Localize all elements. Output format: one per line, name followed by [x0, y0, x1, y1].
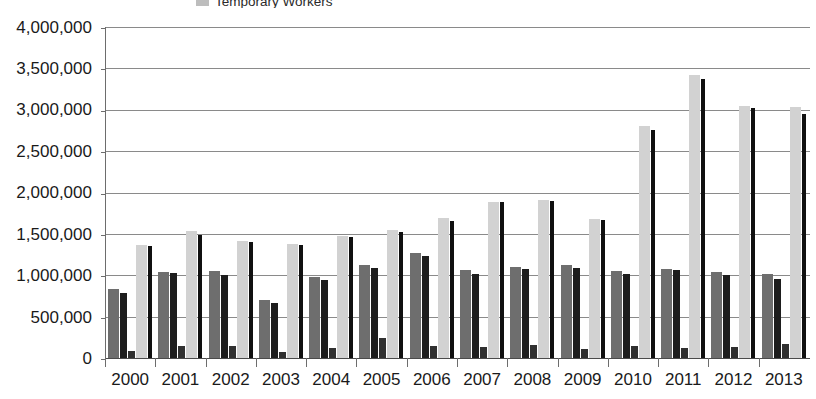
bar-group-2005: [357, 27, 407, 358]
bar-group-2008: [508, 27, 558, 358]
bar: [782, 344, 789, 358]
bar: [460, 270, 471, 358]
x-tick-label: 2011: [658, 370, 708, 394]
bar: [510, 267, 521, 358]
bar: [538, 200, 549, 358]
bar-group-2009: [559, 27, 609, 358]
bar: [422, 256, 429, 358]
x-tick-label: 2003: [256, 370, 306, 394]
bar: [136, 245, 147, 358]
x-tick-mark: [306, 358, 356, 370]
legend-item-label: Temporary Workers: [215, 0, 333, 8]
bar: [399, 232, 403, 358]
y-axis-labels: 4,000,000 3,500,000 3,000,000 2,500,000 …: [0, 0, 99, 399]
bar: [287, 244, 298, 358]
bar-group-2002: [207, 27, 257, 358]
bar: [711, 272, 722, 358]
bar-group-2003: [257, 27, 307, 358]
x-tick-mark: [457, 358, 507, 370]
bar: [371, 268, 378, 358]
bar: [221, 275, 228, 358]
bar-group-2001: [156, 27, 206, 358]
bar: [581, 349, 588, 358]
y-tick-label: 2,500,000: [16, 143, 92, 160]
x-tick-mark: [507, 358, 557, 370]
x-tick-mark: [708, 358, 758, 370]
x-tick-mark: [155, 358, 205, 370]
bar: [681, 348, 688, 358]
bar: [550, 201, 554, 358]
bar: [359, 265, 370, 358]
bar: [731, 347, 738, 358]
bar-group-2006: [408, 27, 458, 358]
bar: [689, 75, 700, 358]
bar: [762, 274, 773, 358]
bar: [802, 114, 806, 358]
bar: [480, 347, 487, 358]
plot-area: [105, 27, 810, 358]
bar: [198, 235, 202, 358]
y-tick-label: 4,000,000: [16, 19, 92, 36]
x-tick-label: 2007: [457, 370, 507, 394]
bar: [120, 293, 127, 358]
legend-swatch-icon: [196, 0, 209, 6]
x-tick-label: 2004: [306, 370, 356, 394]
bar-chart: Temporary Workers 4,000,000 3,500,000 3,…: [0, 0, 816, 399]
bar: [309, 277, 320, 358]
x-tick-mark: [105, 358, 155, 370]
y-tick-label: 0: [83, 350, 92, 367]
x-tick-mark: [558, 358, 608, 370]
bar: [639, 126, 650, 358]
x-tick-label: 2009: [558, 370, 608, 394]
bar: [410, 253, 421, 358]
bar: [790, 107, 801, 358]
bar: [589, 219, 600, 358]
bar: [148, 246, 152, 358]
bar-group-2011: [659, 27, 709, 358]
bar: [349, 237, 353, 358]
x-tick-label: 2000: [105, 370, 155, 394]
x-tick-label: 2013: [759, 370, 809, 394]
bar: [561, 265, 572, 359]
bar-group-2004: [307, 27, 357, 358]
x-tick-label: 2008: [507, 370, 557, 394]
bar: [611, 271, 622, 358]
bar: [329, 348, 336, 358]
bar: [337, 236, 348, 358]
x-tick-mark: [658, 358, 708, 370]
x-tick-label: 2012: [708, 370, 758, 394]
bar: [186, 231, 197, 358]
bar: [438, 218, 449, 358]
x-tick-label: 2006: [407, 370, 457, 394]
bar: [488, 202, 499, 358]
x-tick-mark: [759, 358, 809, 370]
bar: [774, 279, 781, 358]
bar: [522, 269, 529, 358]
bar-group-2012: [709, 27, 759, 358]
x-tick-label: 2005: [356, 370, 406, 394]
x-axis-ticks: [105, 358, 809, 370]
y-tick-label: 1,500,000: [16, 226, 92, 243]
bar: [500, 202, 504, 358]
bar: [651, 130, 655, 358]
bar: [530, 345, 537, 358]
bar: [701, 79, 705, 358]
bar-group-2010: [609, 27, 659, 358]
bar: [450, 221, 454, 358]
bar: [751, 108, 755, 358]
bar-group-2013: [760, 27, 810, 358]
bar-groups: [106, 27, 810, 358]
x-tick-mark: [407, 358, 457, 370]
y-tick-label: 500,000: [31, 309, 92, 326]
bar: [430, 346, 437, 358]
y-tick-label: 3,500,000: [16, 60, 92, 77]
bar: [623, 274, 630, 358]
bar: [249, 242, 253, 358]
bar: [128, 351, 135, 358]
bar: [209, 271, 220, 358]
y-tick-label: 2,000,000: [16, 184, 92, 201]
bar: [108, 289, 119, 358]
y-tick-label: 1,000,000: [16, 267, 92, 284]
bar: [237, 241, 248, 358]
x-tick-mark: [608, 358, 658, 370]
